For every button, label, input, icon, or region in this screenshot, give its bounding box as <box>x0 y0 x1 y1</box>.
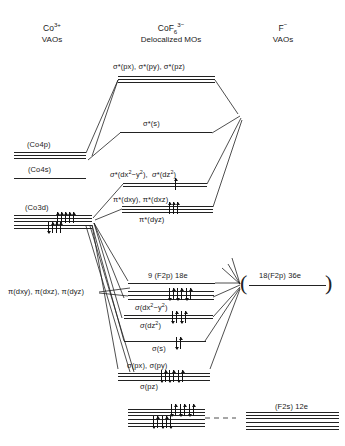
electrons-pi-star-d <box>168 202 182 214</box>
level-sigma-star-s <box>120 132 212 134</box>
level-sigma-star-d <box>123 183 207 188</box>
electrons-sigma-s <box>175 337 185 349</box>
header-left-sub: VAOs <box>14 34 90 46</box>
level-sigma-star-p <box>118 76 215 84</box>
level-label-co4p: (Co4p) <box>27 141 51 149</box>
electrons-sigma-star-d <box>174 178 180 190</box>
level-sigma-s <box>124 341 206 343</box>
level-label-pi-star-dyz: π*(dyz) <box>139 216 164 224</box>
level-label-f2s-right: (F2s) 12e <box>275 403 308 411</box>
header-right-sub: VAOs <box>248 34 318 46</box>
level-f2p-right <box>249 285 326 287</box>
level-co4s <box>14 178 86 180</box>
level-label-pi-star-d: π*(dxy), π*(dxz) <box>113 196 168 204</box>
level-label-f2p-nonbonding: 9 (F2p) 18e <box>148 272 188 280</box>
bracket-right-f2p: ) <box>325 272 332 294</box>
header-left-column: Co3+ VAOs <box>14 22 90 46</box>
level-label-sigma-dz2: σ(dz2) <box>140 322 161 330</box>
level-label-sigma-star-s: σ*(s) <box>143 120 160 128</box>
level-label-sigma-star-d: σ*(dx2−y2), σ*(dz2) <box>110 171 176 179</box>
header-center-sub: Delocalized MOs <box>110 34 232 46</box>
electrons-co3d-lower <box>46 222 66 233</box>
electrons-f2s-center-upper <box>170 404 198 416</box>
mo-diagram: Co3+ VAOs CoF63− Delocalized MOs F− VAOs… <box>0 0 345 446</box>
level-sigma-d <box>124 315 213 320</box>
header-center-formula: CoF63− <box>110 22 232 34</box>
level-label-co3d: (Co3d) <box>25 204 49 212</box>
level-label-sigma-d: σ(dx2−y2) <box>135 304 168 312</box>
level-f2p-nonbonding <box>128 283 215 285</box>
level-label-pi-bonding-left: π(dxy), π(dxz), π(dyz) <box>8 288 84 296</box>
level-f2s-right <box>246 412 339 430</box>
level-label-sigma-pz: σ(pz) <box>140 383 158 391</box>
bracket-left-f2p: ( <box>240 272 247 294</box>
electrons-sigma-d <box>171 311 189 323</box>
level-label-sigma-star-p: σ*(px), σ*(py), σ*(pz) <box>113 63 185 71</box>
electrons-sigma-p <box>160 370 188 382</box>
level-co4p <box>14 152 86 160</box>
header-center-column: CoF63− Delocalized MOs <box>110 22 232 46</box>
level-label-co4s: (Co4s) <box>28 166 51 174</box>
header-right-formula: F− <box>248 22 318 34</box>
electrons-f2s-center-lower <box>152 416 174 428</box>
header-left-formula: Co3+ <box>14 22 90 34</box>
header-right-column: F− VAOs <box>248 22 318 46</box>
level-label-f2p-right: 18(F2p) 36e <box>259 272 301 280</box>
electrons-pi-bonding <box>168 288 194 300</box>
level-label-sigma-s: σ(s) <box>152 345 166 353</box>
level-label-sigma-p: σ(px), σ(py) <box>127 362 167 370</box>
